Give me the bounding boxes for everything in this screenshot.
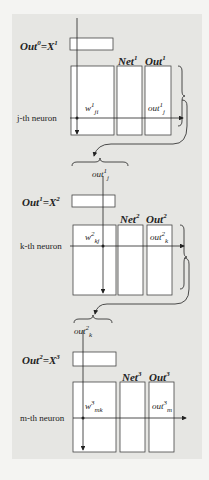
output-label-2: out2k [150,233,168,242]
output-label-3: out3m [152,402,172,411]
net-label-1: Net1 [118,56,137,67]
out-label-2: Out2 [146,214,167,225]
neuron-label-3: m-th neuron [20,414,64,423]
net-label-2: Net2 [120,214,139,225]
connector-label-1: out1j [92,170,109,179]
net-label-3: Net3 [122,372,141,383]
weight-label-2: w2kj [85,233,100,242]
connector-label-2: out2k [74,327,92,336]
output-label-1: out1j [148,104,165,113]
weight-label-1: w1ji [85,104,98,113]
input-label-2: Out1=X2 [22,197,60,208]
out-label-1: Out1 [145,56,166,67]
net-box-1 [117,66,142,135]
diagram-lines [0,0,209,480]
out-box-1 [145,66,171,135]
input-label-1: Out0=X1 [20,41,58,52]
neuron-label-1: j-th neuron [17,114,57,123]
out-label-3: Out3 [149,372,170,383]
input-box-1 [70,38,113,50]
neuron-label-2: k-th neuron [20,242,62,251]
input-label-3: Out2=X3 [22,355,60,366]
weight-label-3: w3mk [85,402,103,411]
